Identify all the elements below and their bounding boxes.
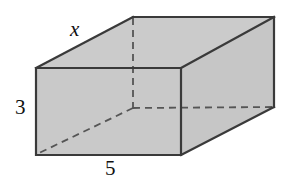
rectangular-prism-drawing: [0, 0, 295, 190]
prism-figure: x 3 5: [0, 0, 295, 190]
dimension-label-height: 3: [15, 97, 26, 118]
dimension-label-depth: x: [70, 19, 79, 40]
dimension-label-width: 5: [105, 158, 116, 179]
prism-front-face: [36, 68, 181, 155]
